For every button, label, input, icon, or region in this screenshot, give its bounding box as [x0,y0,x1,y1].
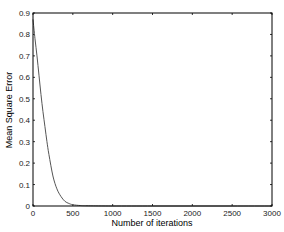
y-axis-ticks: 00.10.20.30.40.50.60.70.80.9 [19,9,272,211]
x-axis-ticks: 050010001500200025003000 [31,13,282,218]
y-tick-label: 0.3 [19,138,31,147]
x-tick-label: 2500 [223,209,241,218]
mse-curve [33,19,272,206]
x-tick-label: 500 [66,209,80,218]
y-axis-label: Mean Square Error [4,72,14,149]
y-tick-label: 0.8 [19,30,31,39]
y-tick-label: 0.2 [19,159,31,168]
x-axis-label: Number of iterations [111,218,193,228]
y-tick-label: 0.7 [19,52,31,61]
y-tick-label: 0 [26,202,31,211]
y-tick-label: 0.5 [19,95,31,104]
x-tick-label: 1000 [104,209,122,218]
x-tick-label: 1500 [144,209,162,218]
x-tick-label: 2000 [183,209,201,218]
mse-line-chart: 050010001500200025003000 00.10.20.30.40.… [0,0,284,232]
y-tick-label: 0.1 [19,181,31,190]
y-tick-label: 0.4 [19,116,31,125]
x-tick-label: 3000 [263,209,281,218]
axes-frame [33,13,272,206]
y-tick-label: 0.9 [19,9,31,18]
x-tick-label: 0 [31,209,36,218]
y-tick-label: 0.6 [19,73,31,82]
